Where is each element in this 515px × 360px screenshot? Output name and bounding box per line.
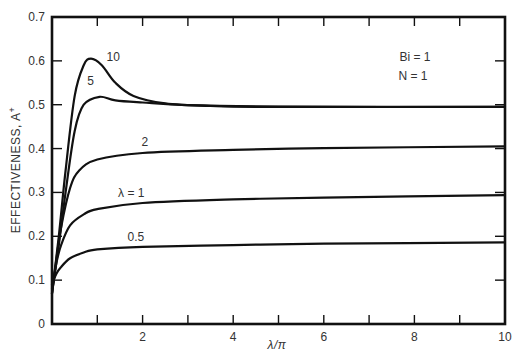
y-axis-label-text: EFFECTIVENESS, A [9, 113, 23, 234]
x-tick-label: 2 [139, 330, 146, 344]
curve-lambda-2 [52, 146, 505, 293]
curve-label: λ = 1 [118, 186, 145, 200]
y-axis-label: EFFECTIVENESS, A+ [7, 107, 23, 233]
effectiveness-chart: 246810 00.10.20.30.40.50.60.7 1052λ = 10… [0, 0, 515, 360]
x-axis-label: λ/π [267, 338, 287, 352]
curve-labels: 1052λ = 10.5 [87, 50, 148, 244]
x-tick-label: 10 [498, 330, 512, 344]
plot-frame [52, 17, 505, 324]
y-tick-label: 0.4 [28, 142, 45, 156]
x-tick-label: 8 [411, 330, 418, 344]
curve-lambda-0-5 [52, 242, 505, 284]
y-tick-label: 0.2 [28, 229, 45, 243]
curve-label: 5 [87, 74, 94, 88]
curve-label: 2 [142, 135, 149, 149]
n-annotation: N = 1 [398, 69, 427, 83]
y-tick-label: 0.5 [28, 98, 45, 112]
x-axis-ticks: 246810 [97, 17, 512, 344]
curve-label: 0.5 [127, 230, 144, 244]
x-tick-label: 4 [230, 330, 237, 344]
curve-label: 10 [106, 50, 120, 64]
bi-annotation: Bi = 1 [399, 50, 430, 64]
y-tick-label: 0.3 [28, 185, 45, 199]
curves [52, 59, 505, 294]
y-axis-ticks: 00.10.20.30.40.50.60.7 [28, 10, 505, 331]
y-tick-label: 0.7 [28, 10, 45, 24]
y-axis-label-sup: + [7, 107, 17, 113]
curve-lambda-10 [52, 59, 505, 294]
y-tick-label: 0.6 [28, 54, 45, 68]
y-tick-label: 0.1 [28, 273, 45, 287]
x-tick-label: 6 [320, 330, 327, 344]
y-tick-label: 0 [38, 317, 45, 331]
